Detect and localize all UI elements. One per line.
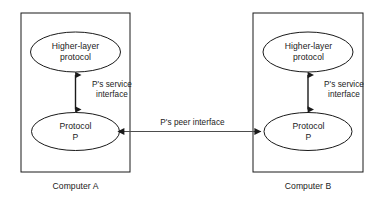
- node-label-protocol-p-b: Protocol P: [258, 121, 359, 142]
- edge-label-peer-interface: P's peer interface: [135, 118, 250, 128]
- caption-computer-b: Computer B: [253, 181, 363, 191]
- node-label-protocol-p-a: Protocol P: [25, 121, 126, 142]
- node-label-higher-layer-protocol-a: Higher-layer protocol: [25, 41, 126, 62]
- diagram-canvas: [0, 0, 384, 204]
- protocol-diagram: Higher-layer protocol Protocol P Higher-…: [0, 0, 384, 204]
- edge-label-service-interface-a: P's service interface: [81, 80, 143, 100]
- node-label-higher-layer-protocol-b: Higher-layer protocol: [258, 41, 359, 62]
- caption-computer-a: Computer A: [21, 181, 130, 191]
- edge-label-service-interface-b: P's service interface: [313, 80, 375, 100]
